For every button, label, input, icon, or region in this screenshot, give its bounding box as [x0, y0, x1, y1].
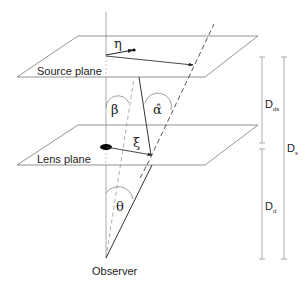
observer-label: Observer [92, 265, 138, 277]
apparent-ray-lower-dashed [140, 165, 147, 178]
apparent-ray-dashed [147, 24, 214, 165]
observed-ray [106, 165, 152, 258]
dds-label: Dds [265, 98, 279, 112]
lens-plane-label: Lens plane [37, 153, 91, 165]
source-plane-label: Source plane [37, 65, 102, 77]
theta-arc [106, 187, 133, 199]
xi-label: ξ [133, 135, 140, 150]
deflected-ray [139, 77, 151, 155]
lensing-diagram: Source plane Lens plane η ξ β α̂ θ Obser… [0, 0, 305, 282]
eta-label: η [114, 36, 122, 51]
source-point [132, 48, 135, 51]
alpha-hat-label: α̂ [153, 102, 162, 117]
dd-label: Dd [265, 200, 276, 214]
beta-label: β [111, 102, 119, 117]
theta-label: θ [116, 199, 124, 214]
ds-label: Ds [287, 142, 298, 156]
xi-vector [106, 147, 152, 155]
source-image-vector [106, 56, 193, 65]
